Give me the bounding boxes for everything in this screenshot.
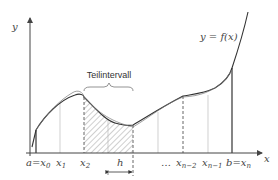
tick-ellipsis: … xyxy=(161,157,171,168)
tick-x2: x2 xyxy=(80,157,91,170)
integration-diagram: Teilintervall y = f(x) y x h a=x0 x1 x2 … xyxy=(0,0,278,180)
tick-a: a=x0 xyxy=(26,157,51,170)
y-axis-label: y xyxy=(11,21,18,32)
function-label: y = f(x) xyxy=(199,31,238,42)
x-axis-label: x xyxy=(264,153,270,164)
tick-x1: x1 xyxy=(56,157,66,170)
subinterval-label: Teilintervall xyxy=(87,70,132,80)
tick-xn-2: xn−2 xyxy=(176,157,197,170)
subinterval-brace xyxy=(84,83,133,91)
step-label: h xyxy=(117,157,123,168)
tick-b: b=xn xyxy=(226,157,251,170)
tick-labels: a=x0 x1 x2 … xn−2 xn−1 b=xn xyxy=(26,157,251,170)
tick-xn-1: xn−1 xyxy=(202,157,222,170)
